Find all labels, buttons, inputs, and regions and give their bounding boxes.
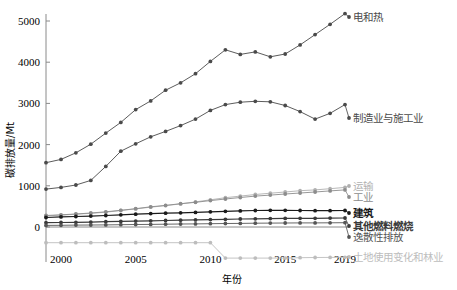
data-point	[74, 223, 78, 227]
data-point	[164, 219, 168, 223]
data-point	[298, 110, 302, 114]
data-point	[179, 218, 183, 222]
series-label-逸散性排放: 逸散性排放	[353, 231, 404, 243]
data-point	[194, 222, 198, 226]
data-point	[283, 104, 287, 108]
data-point	[119, 213, 123, 217]
data-point	[209, 210, 213, 214]
data-point	[298, 191, 302, 195]
data-point	[268, 217, 272, 221]
data-point	[313, 221, 317, 225]
data-point	[74, 151, 78, 155]
data-point	[194, 72, 198, 76]
data-point	[238, 222, 242, 226]
data-point	[268, 55, 272, 59]
data-point	[74, 215, 78, 219]
data-point	[209, 241, 213, 245]
data-point	[119, 121, 123, 125]
data-point	[104, 131, 108, 135]
data-point	[253, 221, 257, 225]
data-point	[149, 205, 153, 209]
data-point	[209, 222, 213, 226]
data-point	[164, 222, 168, 226]
data-point	[89, 214, 93, 218]
data-point	[224, 217, 228, 221]
data-point	[164, 241, 168, 245]
series-label-marker-5	[347, 224, 351, 228]
data-point	[298, 43, 302, 47]
data-point	[224, 222, 228, 226]
data-point	[268, 256, 272, 260]
data-point	[253, 194, 257, 198]
data-point	[238, 196, 242, 200]
data-point	[268, 221, 272, 225]
data-point	[194, 211, 198, 215]
y-tick-label: 1000	[18, 180, 41, 192]
series-leader-line-1	[345, 105, 349, 118]
data-point	[89, 142, 93, 146]
series-label-marker-6	[347, 235, 351, 239]
y-tick-label: 2000	[18, 139, 41, 151]
data-point	[194, 241, 198, 245]
data-point	[59, 186, 63, 190]
data-point	[313, 256, 317, 260]
data-point	[253, 217, 257, 221]
data-point	[283, 217, 287, 221]
data-point	[209, 109, 213, 113]
series-line-0	[46, 14, 345, 163]
series-label-制造业与施工业: 制造业与施工业	[353, 112, 423, 124]
data-point	[224, 48, 228, 52]
data-point	[44, 241, 48, 245]
data-point	[179, 211, 183, 215]
data-point	[104, 214, 108, 218]
series-line-7	[46, 243, 345, 258]
data-point	[253, 256, 257, 260]
data-point	[149, 212, 153, 216]
data-point	[224, 197, 228, 201]
data-point	[298, 209, 302, 213]
x-axis-title: 年份	[222, 273, 242, 285]
data-point	[179, 202, 183, 206]
data-point	[134, 142, 138, 146]
data-point	[59, 223, 63, 227]
series-labels: 电和热制造业与施工业运输工业建筑其他燃料燃烧逸散性排放土地使用变化和林业	[345, 11, 443, 263]
data-point	[164, 130, 168, 134]
data-point	[164, 88, 168, 92]
data-point	[104, 165, 108, 169]
data-point	[268, 100, 272, 104]
data-point	[209, 218, 213, 222]
x-tick-label: 2010	[199, 253, 222, 265]
data-point	[238, 209, 242, 213]
data-point	[328, 256, 332, 260]
chart-canvas: 010002000300040005000 200020052010201520…	[0, 0, 457, 290]
data-point	[119, 208, 123, 212]
data-point	[119, 149, 123, 153]
data-point	[238, 256, 242, 260]
data-point	[149, 135, 153, 139]
data-point	[134, 108, 138, 112]
data-point	[313, 190, 317, 194]
data-point	[74, 183, 78, 187]
data-point	[44, 161, 48, 165]
data-point	[283, 221, 287, 225]
data-point	[149, 223, 153, 227]
data-point	[104, 210, 108, 214]
data-point	[313, 216, 317, 220]
data-point	[268, 208, 272, 212]
data-point	[313, 209, 317, 213]
data-point	[164, 211, 168, 215]
data-point	[134, 241, 138, 245]
data-point	[179, 222, 183, 226]
data-point	[134, 223, 138, 227]
data-point	[328, 221, 332, 225]
data-point	[283, 52, 287, 56]
x-tick-label: 2000	[50, 253, 73, 265]
data-point	[134, 207, 138, 211]
data-point	[119, 223, 123, 227]
data-point	[89, 223, 93, 227]
series-container	[44, 12, 347, 260]
data-point	[179, 241, 183, 245]
data-point	[224, 256, 228, 260]
data-point	[298, 221, 302, 225]
data-point	[328, 189, 332, 193]
